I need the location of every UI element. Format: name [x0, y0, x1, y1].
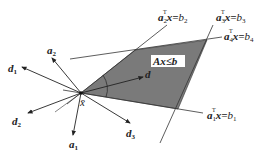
- normal-a2-label: a2: [47, 44, 57, 58]
- point-label: x̄: [79, 96, 85, 108]
- normal-a1-label: a1: [69, 138, 79, 152]
- region-label: Ax≤b: [152, 55, 178, 67]
- direction-d3-label: d3: [126, 127, 136, 141]
- constraint-a4-label: a4Tx=b4: [224, 28, 254, 44]
- vector-d1: [22, 67, 81, 93]
- point-x-bar: [79, 91, 83, 95]
- vector-a2: [52, 58, 81, 93]
- direction-d2-label: d2: [12, 115, 22, 129]
- direction-label: d: [145, 68, 151, 80]
- vector-d2: [28, 93, 81, 113]
- feasible-region-diagram: Ax≤b x̄ d a2 a1 d1 d2 d3 a2Tx=b2 a3Tx=b3…: [0, 0, 261, 160]
- direction-d1-label: d1: [8, 62, 18, 76]
- constraint-a2-label: a2Tx=b2: [158, 9, 188, 25]
- extension-line: [55, 93, 81, 112]
- constraint-a3-label: a3Tx=b3: [216, 9, 246, 25]
- feasible-region: [81, 40, 207, 109]
- constraint-a1-label: a1Tx=b1: [207, 107, 237, 123]
